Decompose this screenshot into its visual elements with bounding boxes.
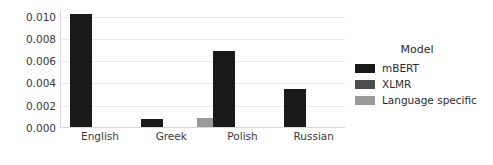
x-tick-label: English	[81, 131, 119, 142]
legend-entry[interactable]: Language specific	[355, 93, 491, 107]
legend-title: Model	[361, 44, 473, 55]
y-tick-label: 0.008	[2, 34, 56, 45]
gridline	[60, 17, 345, 18]
x-axis-tick-labels: EnglishGreekPolishRussian	[60, 131, 345, 149]
legend-label: XLMR	[382, 79, 411, 90]
plot-area	[60, 11, 345, 128]
y-tick-label: 0.010	[2, 12, 56, 23]
y-tick-label: 0.004	[2, 78, 56, 89]
legend-entry[interactable]: XLMR	[355, 77, 491, 91]
bar	[213, 51, 235, 128]
bar	[70, 14, 92, 128]
legend: Model mBERTXLMRLanguage specific	[355, 44, 491, 109]
y-tick-label: 0.002	[2, 101, 56, 112]
legend-label: mBERT	[382, 63, 419, 74]
y-tick-label: 0.000	[2, 123, 56, 134]
y-axis-tick-labels: 0.0000.0020.0040.0060.0080.010	[0, 11, 56, 128]
y-axis-spine	[60, 11, 61, 128]
legend-swatch-icon	[355, 80, 375, 89]
legend-entry[interactable]: mBERT	[355, 61, 491, 75]
bar-chart-figure: 0.0000.0020.0040.0060.0080.010 EnglishGr…	[0, 0, 493, 165]
gridline	[60, 39, 345, 40]
legend-label: Language specific	[382, 95, 477, 106]
legend-swatch-icon	[355, 96, 375, 105]
x-tick-label: Greek	[156, 131, 187, 142]
legend-swatch-icon	[355, 64, 375, 73]
y-tick-label: 0.006	[2, 56, 56, 67]
bar	[284, 89, 306, 128]
gridline	[60, 61, 345, 62]
x-tick-label: Russian	[294, 131, 334, 142]
legend-entries: mBERTXLMRLanguage specific	[355, 61, 491, 107]
gridline	[60, 83, 345, 84]
x-axis-baseline	[60, 127, 345, 128]
x-tick-label: Polish	[227, 131, 257, 142]
